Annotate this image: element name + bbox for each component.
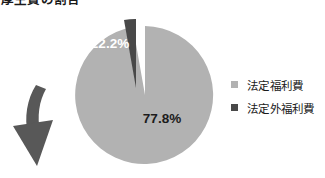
- legend-label-houteigai-fukurihi: 法定外福利費: [247, 100, 315, 116]
- legend-item-houteigai-fukurihi[interactable]: 法定外福利費: [231, 97, 325, 118]
- legend-swatch-icon-houtei-fukurihi: [231, 81, 238, 88]
- pie-chart-svg: 22.2% 77.8%: [0, 0, 230, 178]
- legend-label-houtei-fukurihi: 法定福利費: [247, 77, 304, 93]
- legend-item-houtei-fukurihi[interactable]: 法定福利費: [231, 74, 325, 95]
- chart-screenshot: 厚生費の割合 22.2% 77.8% 法定福利費 法定外福: [0, 0, 325, 178]
- slice-data-label-houtei: 77.8%: [143, 111, 181, 126]
- chart-legend: 法定福利費 法定外福利費: [231, 74, 325, 120]
- pie-chart-figure: 22.2% 77.8%: [0, 0, 230, 178]
- slice-data-label-houteigai: 22.2%: [91, 36, 129, 51]
- curved-down-arrow-icon: [13, 85, 53, 166]
- legend-swatch-icon-houteigai-fukurihi: [231, 104, 238, 111]
